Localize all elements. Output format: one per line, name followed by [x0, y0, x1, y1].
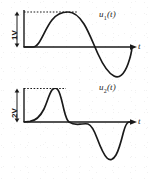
signal-label-u2-arg: (t): [107, 82, 116, 92]
waveform-u1: [24, 12, 132, 77]
x-axis-label-bottom: t: [138, 116, 141, 126]
signal-label-u1: u1(t): [99, 9, 116, 21]
amplitude-label-1v: 1V: [10, 30, 19, 40]
chart-u1: [0, 0, 150, 90]
x-axis: [24, 44, 137, 50]
waveform-figure: 1V u1(t) t 2V u2(t) t: [0, 0, 150, 181]
amplitude-label-2v: 2V: [10, 108, 19, 118]
signal-label-u2: u2(t): [99, 82, 116, 94]
chart-u1-canvas: [0, 0, 150, 90]
x-axis-label-top: t: [138, 41, 141, 51]
waveform-u2: [24, 88, 132, 159]
signal-label-u1-arg: (t): [107, 9, 116, 19]
chart-u2-canvas: [0, 88, 150, 181]
chart-u2: [0, 88, 150, 181]
